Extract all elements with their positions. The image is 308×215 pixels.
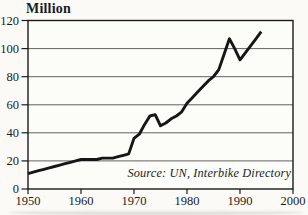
x-tick-label: 1950 — [8, 195, 48, 208]
y-axis-unit-label: Million — [26, 1, 71, 17]
source-note: Source: UN, Interbike Directory — [127, 166, 291, 181]
x-tick-label: 1980 — [167, 195, 207, 208]
y-tick-label: 40 — [0, 126, 19, 140]
y-tick-label: 100 — [0, 42, 19, 56]
x-tick-label: 1960 — [61, 195, 101, 208]
x-tick-label: 2000 — [273, 195, 308, 208]
y-tick-label: 20 — [0, 154, 19, 168]
y-tick-label: 60 — [0, 98, 19, 112]
chart-figure: Million 020406080100120 1950196019701980… — [0, 0, 308, 215]
y-tick-label: 80 — [0, 70, 19, 84]
plot-area — [0, 0, 308, 215]
scan-artifact — [8, 210, 304, 215]
x-tick-label: 1990 — [220, 195, 260, 208]
y-tick-label: 120 — [0, 14, 19, 28]
x-tick-label: 1970 — [114, 195, 154, 208]
